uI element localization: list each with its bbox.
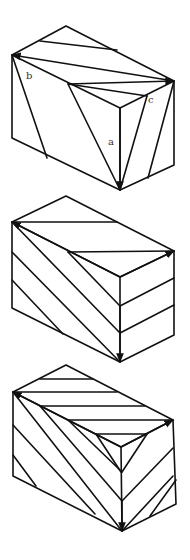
vector-label-c: c xyxy=(148,94,154,105)
vector-arrow-icon xyxy=(68,81,174,84)
block-outline xyxy=(13,365,176,531)
block-middle xyxy=(12,196,174,362)
blocks-layer: bca xyxy=(12,26,176,531)
diagram-canvas: bca xyxy=(0,0,190,560)
isometric-block-diagrams: bca xyxy=(0,0,190,560)
block-edge-line xyxy=(122,476,173,531)
block-edge-line xyxy=(122,448,173,501)
block-edge-line xyxy=(68,84,147,96)
vector-arrow-icon xyxy=(120,251,174,277)
block-edge-line xyxy=(13,425,95,514)
block-top: bca xyxy=(12,26,174,190)
block-edge-line xyxy=(120,278,174,306)
block-edge-line xyxy=(68,252,120,306)
block-edge-line xyxy=(68,420,122,472)
block-outline xyxy=(12,26,174,190)
block-edge-line xyxy=(12,280,63,334)
block-edge-line xyxy=(13,392,122,531)
vector-label-b: b xyxy=(26,70,32,81)
block-edge-line xyxy=(120,96,147,190)
block-edge-line xyxy=(120,81,174,108)
vector-label-a: a xyxy=(108,136,114,147)
block-edge-line xyxy=(96,434,121,472)
block-edge-line xyxy=(120,305,174,333)
block-bottom xyxy=(13,365,176,531)
block-edge-line xyxy=(68,251,174,252)
